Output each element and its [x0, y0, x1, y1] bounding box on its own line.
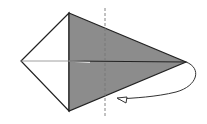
white-left-flap [21, 13, 69, 111]
arrowhead-icon [117, 97, 127, 103]
origami-diagram [0, 0, 207, 124]
